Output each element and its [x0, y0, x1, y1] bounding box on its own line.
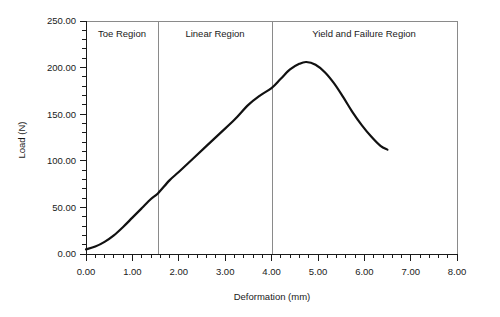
x-tick-label-0: 0.00: [77, 266, 96, 277]
y-tick-label-150: 150.00: [47, 109, 76, 120]
x-tick-label-8: 8.00: [448, 266, 467, 277]
x-tick-label-6: 6.00: [355, 266, 374, 277]
region-label-toe: Toe Region: [98, 28, 146, 39]
x-tick-label-2: 2.00: [170, 266, 189, 277]
chart-figure: Toe Region Linear Region Yield and Failu…: [0, 0, 500, 317]
x-tick-label-5: 5.00: [309, 266, 328, 277]
x-tick-label-4: 4.00: [262, 266, 281, 277]
x-tick-label-7: 7.00: [402, 266, 421, 277]
y-tick-label-0: 0.00: [58, 248, 77, 259]
y-tick-label-250: 250.00: [47, 15, 76, 26]
y-tick-label-200: 200.00: [47, 62, 76, 73]
x-axis-tick-labels: 0.00 1.00 2.00 3.00 4.00 5.00 6.00 7.00 …: [77, 266, 467, 277]
load-deformation-chart: Toe Region Linear Region Yield and Failu…: [0, 0, 500, 317]
y-axis-title: Load (N): [16, 122, 27, 159]
x-tick-label-3: 3.00: [216, 266, 235, 277]
region-label-yield-failure: Yield and Failure Region: [312, 28, 416, 39]
x-tick-label-1: 1.00: [123, 266, 142, 277]
x-axis-title: Deformation (mm): [234, 291, 311, 302]
y-tick-label-100: 100.00: [47, 155, 76, 166]
region-label-linear: Linear Region: [185, 28, 244, 39]
y-tick-label-50: 50.00: [52, 202, 76, 213]
